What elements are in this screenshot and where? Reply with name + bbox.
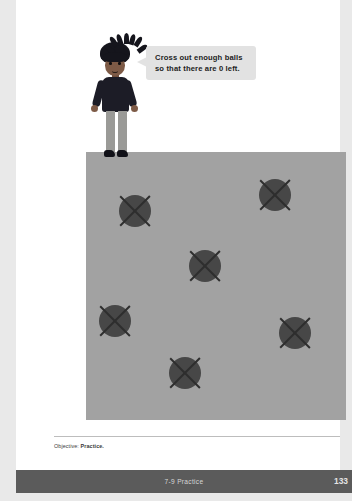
character-mouth: [112, 69, 118, 73]
footer-page-number: 133: [334, 470, 348, 493]
instruction-line-1: Cross out enough balls: [155, 52, 249, 63]
character-leg-right: [118, 111, 127, 152]
ball-1[interactable]: [114, 190, 156, 232]
character-hand-right: [131, 105, 138, 112]
character-fringe: [103, 52, 127, 62]
character-hand-left: [91, 105, 98, 112]
ball-5[interactable]: [274, 312, 316, 354]
bottom-strip: [0, 493, 352, 501]
objective-value: Practice.: [81, 443, 104, 449]
ball-2[interactable]: [254, 174, 296, 216]
ball-6[interactable]: [164, 352, 206, 394]
footer-lesson-title: 7-9 Practice: [16, 470, 352, 493]
ball-3[interactable]: [184, 245, 226, 287]
character-eye-left: [109, 62, 112, 65]
character-torso: [102, 77, 129, 112]
character-shoe-left: [104, 150, 115, 157]
objective-line: Objective: Practice.: [54, 443, 104, 449]
instruction-speech-bubble: Cross out enough balls so that there are…: [146, 46, 256, 80]
character-leg-left: [106, 111, 115, 152]
objective-divider: [54, 436, 340, 437]
character-eye-right: [118, 62, 121, 65]
objective-label: Objective:: [54, 443, 79, 449]
speech-bubble-tail: [137, 57, 147, 67]
worksheet-page: Cross out enough balls so that there are…: [16, 0, 340, 470]
page-footer-bar: 7-9 Practice 133: [16, 470, 352, 493]
ball-4[interactable]: [94, 300, 136, 342]
activity-area[interactable]: [86, 152, 346, 420]
character-shoe-right: [117, 150, 128, 157]
instruction-line-2: so that there are 0 left.: [155, 63, 249, 74]
